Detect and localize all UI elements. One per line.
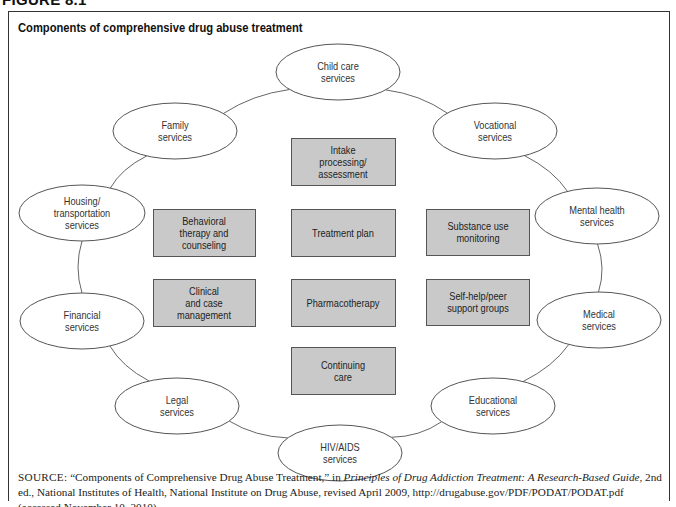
connector-line bbox=[391, 422, 441, 438]
connector-line bbox=[110, 346, 149, 381]
component-label-substance-use-line: Substance use bbox=[447, 220, 508, 232]
connector-line bbox=[223, 90, 289, 114]
service-label-mental-health-line: services bbox=[569, 216, 624, 228]
component-label-pharmacotherapy-line: Pharmacotherapy bbox=[307, 297, 380, 309]
source-label: SOURCE: bbox=[18, 471, 67, 483]
service-label-educational-line: services bbox=[469, 406, 517, 418]
component-label-continuing-care: Continuingcare bbox=[321, 359, 365, 383]
component-label-pharmacotherapy: Pharmacotherapy bbox=[307, 297, 380, 309]
connector-line bbox=[386, 90, 448, 113]
component-label-intake-line: processing/ bbox=[318, 156, 367, 168]
component-label-intake: Intakeprocessing/assessment bbox=[318, 144, 367, 180]
component-label-behavioral-line: counseling bbox=[180, 239, 229, 251]
service-label-child-care-line: Child care bbox=[317, 60, 359, 72]
component-label-treatment-plan: Treatment plan bbox=[312, 227, 374, 239]
connector-line bbox=[78, 241, 82, 293]
service-label-medical-line: Medical bbox=[582, 308, 616, 320]
service-label-financial-line: services bbox=[64, 321, 101, 333]
component-label-clinical-line: management bbox=[177, 309, 231, 321]
component-label-clinical-line: and case bbox=[177, 297, 231, 309]
service-label-medical: Medicalservices bbox=[582, 308, 616, 332]
service-label-family-line: services bbox=[158, 131, 192, 143]
service-label-mental-health-line: Mental health bbox=[569, 204, 624, 216]
service-label-child-care-line: services bbox=[317, 72, 359, 84]
service-label-housing: Housing/transportationservices bbox=[54, 195, 111, 231]
component-label-substance-use-line: monitoring bbox=[447, 232, 508, 244]
component-label-clinical-line: Clinical bbox=[177, 285, 231, 297]
service-label-medical-line: services bbox=[582, 320, 616, 332]
component-label-intake-line: Intake bbox=[318, 144, 367, 156]
service-label-hiv-aids-line: HIV/AIDS bbox=[320, 441, 360, 453]
service-label-financial: Financialservices bbox=[64, 309, 101, 333]
service-label-family: Familyservices bbox=[158, 119, 192, 143]
service-label-financial-line: Financial bbox=[64, 309, 101, 321]
service-ellipses bbox=[19, 44, 661, 481]
service-label-legal-line: services bbox=[160, 406, 194, 418]
service-label-housing-line: Housing/ bbox=[54, 195, 111, 207]
component-label-clinical: Clinicaland casemanagement bbox=[177, 285, 231, 321]
service-label-hiv-aids-line: services bbox=[320, 453, 360, 465]
component-label-self-help-line: Self-help/peer bbox=[447, 290, 509, 302]
connector-line bbox=[523, 345, 569, 382]
service-label-housing-line: services bbox=[54, 219, 111, 231]
service-label-legal: Legalservices bbox=[160, 394, 194, 418]
component-label-substance-use: Substance usemonitoring bbox=[447, 220, 508, 244]
component-label-behavioral: Behavioraltherapy andcounseling bbox=[180, 215, 229, 251]
service-label-mental-health: Mental healthservices bbox=[569, 204, 624, 228]
component-label-self-help: Self-help/peersupport groups bbox=[447, 290, 509, 314]
component-label-behavioral-line: Behavioral bbox=[180, 215, 229, 227]
service-label-family-line: Family bbox=[158, 119, 192, 131]
service-label-educational: Educationalservices bbox=[469, 394, 517, 418]
connector-line bbox=[525, 156, 568, 192]
service-label-hiv-aids: HIV/AIDSservices bbox=[320, 441, 360, 465]
service-label-housing-line: transportation bbox=[54, 207, 111, 219]
service-label-educational-line: Educational bbox=[469, 394, 517, 406]
component-label-intake-line: assessment bbox=[318, 168, 367, 180]
service-label-legal-line: Legal bbox=[160, 394, 194, 406]
source-text-1: “Components of Comprehensive Drug Abuse … bbox=[67, 471, 343, 483]
service-label-vocational-line: services bbox=[474, 131, 517, 143]
component-label-treatment-plan-line: Treatment plan bbox=[312, 227, 374, 239]
component-label-continuing-care-line: care bbox=[321, 371, 365, 383]
connector-line bbox=[110, 156, 146, 188]
component-label-continuing-care-line: Continuing bbox=[321, 359, 365, 371]
service-label-child-care: Child careservices bbox=[317, 60, 359, 84]
service-label-vocational: Vocationalservices bbox=[474, 119, 517, 143]
connector-line bbox=[229, 421, 287, 438]
service-label-vocational-line: Vocational bbox=[474, 119, 517, 131]
connector-line bbox=[598, 244, 603, 292]
source-book-title: Principles of Drug Addiction Treatment: … bbox=[344, 471, 640, 483]
component-label-self-help-line: support groups bbox=[447, 302, 509, 314]
component-label-behavioral-line: therapy and bbox=[180, 227, 229, 239]
source-citation: SOURCE: “Components of Comprehensive Dru… bbox=[18, 470, 668, 507]
